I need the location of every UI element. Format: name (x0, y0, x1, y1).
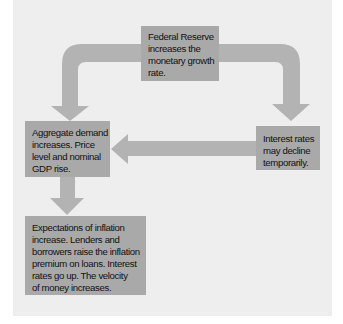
node-text-line: monetary growth (148, 55, 219, 67)
node-text-line: premium on loans. Interest (32, 258, 146, 270)
node-text-line: increases. Price (32, 139, 110, 151)
arrow-fed-to-aggregate (51, 44, 141, 121)
node-text-line: GDP rise. (32, 163, 110, 175)
node-text-line: of money increases. (32, 282, 146, 294)
node-text-line: level and nominal (32, 151, 110, 163)
node-text-line: increase. Lenders and (32, 234, 146, 246)
arrow-fed-to-interest (219, 44, 310, 121)
node-text-line: rate. (148, 67, 219, 79)
node-text-line: may decline (263, 145, 320, 157)
node-text-line: increases the (148, 43, 219, 55)
arrow-aggregate-to-expectations (50, 177, 84, 215)
node-text-line: borrowers raise the inflation (32, 246, 146, 258)
node-inflation-expectations: Expectations of inflation increase. Lend… (25, 216, 146, 295)
node-aggregate-demand: Aggregate demand increases. Price level … (25, 121, 110, 177)
arrow-interest-to-aggregate (111, 134, 256, 164)
node-federal-reserve: Federal Reserve increases the monetary g… (141, 26, 219, 81)
node-text-line: Expectations of inflation (32, 222, 146, 234)
node-text-line: Interest rates (263, 133, 320, 145)
node-interest-rates: Interest rates may decline temporarily. (256, 126, 320, 170)
node-text-line: Federal Reserve (148, 31, 219, 43)
node-text-line: rates go up. The velocity (32, 270, 146, 282)
node-text-line: Aggregate demand (32, 127, 110, 139)
node-text-line: temporarily. (263, 157, 320, 169)
